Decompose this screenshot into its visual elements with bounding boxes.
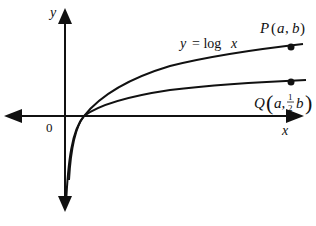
- y-axis-up-arrow-icon: [58, 8, 72, 24]
- log-graph-diagram: y x 0 y = log x P ( a , b ) Q ( a, 1 2 b…: [0, 0, 316, 226]
- curve-label-x: x: [230, 36, 238, 51]
- point-q-paren-open: (: [266, 90, 273, 115]
- point-p-comma: ,: [285, 20, 289, 36]
- point-q-paren-close: ): [305, 90, 312, 115]
- point-p-paren-open: (: [271, 20, 276, 37]
- y-axis-label: y: [48, 5, 57, 20]
- curve-log-x: [66, 44, 303, 205]
- curve-label-log-x: y = log x: [178, 36, 238, 51]
- point-q-label: Q ( a, 1 2 b ): [254, 90, 312, 115]
- point-p-b: b: [292, 20, 300, 36]
- y-axis: [58, 8, 72, 212]
- point-q-frac-num: 1: [288, 92, 293, 102]
- point-p-label: P ( a , b ): [259, 20, 305, 37]
- point-p-marker: [288, 44, 295, 51]
- point-p-letter: P: [259, 20, 269, 36]
- point-q-a: a,: [274, 95, 285, 111]
- point-p-a: a: [277, 20, 285, 36]
- point-p-paren-close: ): [300, 20, 305, 37]
- y-axis-down-arrow-icon: [58, 196, 72, 212]
- point-q-frac-den: 2: [288, 103, 293, 113]
- x-axis-label: x: [281, 123, 289, 138]
- point-q-b: b: [296, 95, 304, 111]
- x-axis-left-arrow-icon: [4, 109, 22, 123]
- curve-label-y: y: [178, 36, 187, 51]
- point-q-letter: Q: [254, 95, 265, 111]
- point-q-marker: [288, 79, 295, 86]
- origin-label: 0: [46, 120, 53, 135]
- curve-label-eq: = log: [192, 36, 221, 51]
